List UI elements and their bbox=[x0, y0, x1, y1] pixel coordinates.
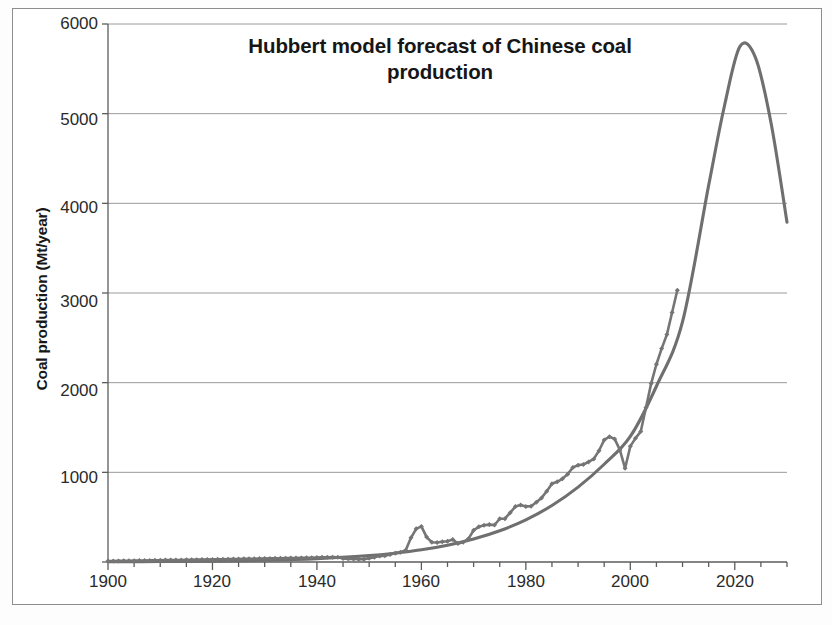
data-point-marker bbox=[487, 522, 492, 527]
gridlines-group bbox=[108, 24, 787, 472]
x-axis-ticks-group bbox=[108, 562, 787, 570]
x-axis-tick-label: 2000 bbox=[595, 572, 665, 592]
historical-production-line bbox=[108, 290, 677, 561]
x-axis-tick-label: 1900 bbox=[73, 572, 143, 592]
data-point-marker bbox=[675, 288, 680, 293]
chart-plot-svg bbox=[0, 0, 832, 625]
data-point-marker bbox=[440, 539, 445, 544]
y-axis-tick-label: 2000 bbox=[36, 381, 98, 401]
historical-production-markers bbox=[106, 288, 680, 564]
x-axis-tick-label: 1920 bbox=[177, 572, 247, 592]
x-axis-tick-label: 1940 bbox=[282, 572, 352, 592]
y-axis-tick-label: 4000 bbox=[36, 198, 98, 218]
x-axis-tick-label: 1960 bbox=[386, 572, 456, 592]
data-point-marker bbox=[435, 540, 440, 545]
hubbert-model-curve bbox=[108, 43, 787, 562]
x-axis-tick-label: 2020 bbox=[700, 572, 770, 592]
y-axis-ticks-group bbox=[102, 24, 108, 562]
y-axis-tick-label: 1000 bbox=[36, 468, 98, 488]
chart-title: Hubbert model forecast of Chinese coal p… bbox=[205, 33, 675, 85]
y-axis-tick-label: 5000 bbox=[36, 110, 98, 130]
chart-figure: Hubbert model forecast of Chinese coal p… bbox=[0, 0, 832, 625]
y-axis-tick-label: 3000 bbox=[36, 292, 98, 312]
y-axis-tick-label: 6000 bbox=[36, 14, 98, 34]
x-axis-tick-label: 1980 bbox=[491, 572, 561, 592]
